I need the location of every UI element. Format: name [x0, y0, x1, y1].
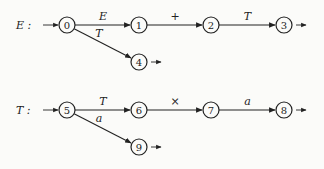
- edge-label: +: [170, 10, 179, 23]
- state-node-7: 7: [203, 102, 219, 118]
- state-id: 0: [64, 20, 70, 31]
- diagram-T: T :T×aa56789: [16, 95, 306, 155]
- edge-label: T: [244, 10, 253, 23]
- state-id: 9: [136, 142, 142, 153]
- edge-label: a: [244, 95, 251, 108]
- diagram-E: E :E+TT01234: [15, 10, 306, 70]
- edge-5-9: [74, 114, 131, 143]
- state-node-2: 2: [203, 17, 219, 33]
- state-id: 3: [281, 20, 287, 31]
- diagram-label: E :: [15, 19, 31, 32]
- state-node-1: 1: [131, 17, 147, 33]
- state-id: 8: [281, 105, 287, 116]
- edge-label: a: [96, 112, 103, 125]
- state-node-8: 8: [276, 102, 306, 118]
- diagram-label: T :: [16, 104, 31, 117]
- state-node-3: 3: [276, 17, 306, 33]
- state-node-9: 9: [131, 139, 161, 155]
- state-id: 6: [136, 105, 142, 116]
- state-id: 2: [208, 20, 214, 31]
- state-id: 7: [208, 105, 214, 116]
- state-node-6: 6: [131, 102, 147, 118]
- transition-diagrams: E :E+TT01234T :T×aa56789: [0, 0, 324, 169]
- state-node-4: 4: [131, 54, 161, 70]
- state-node-5: 5: [59, 102, 75, 118]
- edge-label: T: [99, 95, 108, 108]
- edge-label: E: [98, 10, 107, 23]
- state-id: 4: [136, 57, 142, 68]
- edge-label: ×: [170, 95, 179, 108]
- state-node-0: 0: [59, 17, 75, 33]
- state-id: 5: [64, 105, 70, 116]
- state-id: 1: [136, 20, 142, 31]
- edge-label: T: [95, 27, 104, 40]
